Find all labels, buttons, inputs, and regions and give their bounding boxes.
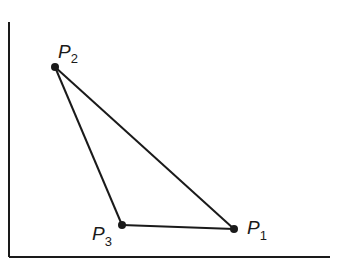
point-p1 [230, 225, 238, 233]
edge-p1-p2 [55, 67, 234, 229]
edge-p2-p3 [55, 67, 122, 225]
edge-p3-p1 [122, 225, 234, 229]
label-p1: P1 [247, 217, 267, 243]
point-p2 [51, 63, 59, 71]
point-p3 [118, 221, 126, 229]
label-p2: P2 [58, 41, 78, 66]
label-p3: P3 [92, 223, 112, 249]
diagram-canvas: P2 P3 P1 [0, 0, 337, 275]
